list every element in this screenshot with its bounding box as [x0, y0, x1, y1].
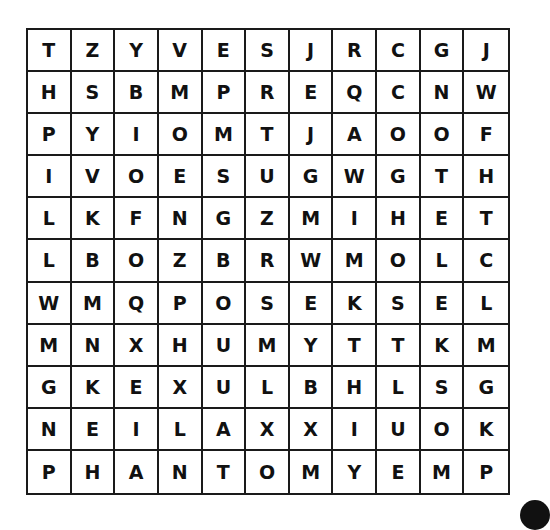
- grid-cell-r7-c4[interactable]: U: [203, 325, 247, 367]
- grid-cell-r4-c10[interactable]: T: [464, 198, 508, 240]
- grid-cell-r2-c0[interactable]: P: [28, 114, 72, 156]
- grid-cell-r10-c0[interactable]: P: [28, 451, 72, 493]
- grid-cell-r1-c3[interactable]: M: [159, 72, 203, 114]
- grid-cell-r8-c9[interactable]: S: [421, 367, 465, 409]
- grid-cell-r2-c2[interactable]: I: [115, 114, 159, 156]
- grid-cell-r6-c0[interactable]: W: [28, 283, 72, 325]
- grid-cell-r9-c2[interactable]: I: [115, 409, 159, 451]
- grid-cell-r3-c1[interactable]: V: [72, 156, 116, 198]
- grid-cell-r6-c6[interactable]: E: [290, 283, 334, 325]
- grid-cell-r4-c8[interactable]: H: [377, 198, 421, 240]
- grid-cell-r0-c8[interactable]: C: [377, 30, 421, 72]
- grid-cell-r6-c7[interactable]: K: [333, 283, 377, 325]
- grid-cell-r10-c10[interactable]: P: [464, 451, 508, 493]
- grid-cell-r6-c10[interactable]: L: [464, 283, 508, 325]
- grid-cell-r1-c0[interactable]: H: [28, 72, 72, 114]
- grid-cell-r10-c7[interactable]: Y: [333, 451, 377, 493]
- grid-cell-r3-c2[interactable]: O: [115, 156, 159, 198]
- grid-cell-r2-c5[interactable]: T: [246, 114, 290, 156]
- grid-cell-r8-c2[interactable]: E: [115, 367, 159, 409]
- grid-cell-r0-c10[interactable]: J: [464, 30, 508, 72]
- grid-cell-r4-c9[interactable]: E: [421, 198, 465, 240]
- grid-cell-r10-c1[interactable]: H: [72, 451, 116, 493]
- grid-cell-r0-c9[interactable]: G: [421, 30, 465, 72]
- grid-cell-r5-c9[interactable]: L: [421, 240, 465, 282]
- grid-cell-r5-c2[interactable]: O: [115, 240, 159, 282]
- grid-cell-r8-c10[interactable]: G: [464, 367, 508, 409]
- grid-cell-r4-c2[interactable]: F: [115, 198, 159, 240]
- grid-cell-r0-c5[interactable]: S: [246, 30, 290, 72]
- grid-cell-r7-c7[interactable]: T: [333, 325, 377, 367]
- grid-cell-r7-c5[interactable]: M: [246, 325, 290, 367]
- grid-cell-r4-c4[interactable]: G: [203, 198, 247, 240]
- grid-cell-r6-c1[interactable]: M: [72, 283, 116, 325]
- grid-cell-r8-c0[interactable]: G: [28, 367, 72, 409]
- grid-cell-r8-c4[interactable]: U: [203, 367, 247, 409]
- grid-cell-r1-c5[interactable]: R: [246, 72, 290, 114]
- grid-cell-r10-c8[interactable]: E: [377, 451, 421, 493]
- grid-cell-r9-c3[interactable]: L: [159, 409, 203, 451]
- grid-cell-r9-c4[interactable]: A: [203, 409, 247, 451]
- grid-cell-r3-c9[interactable]: T: [421, 156, 465, 198]
- grid-cell-r5-c1[interactable]: B: [72, 240, 116, 282]
- grid-cell-r9-c6[interactable]: X: [290, 409, 334, 451]
- grid-cell-r5-c6[interactable]: W: [290, 240, 334, 282]
- grid-cell-r3-c6[interactable]: G: [290, 156, 334, 198]
- grid-cell-r6-c4[interactable]: O: [203, 283, 247, 325]
- grid-cell-r10-c6[interactable]: M: [290, 451, 334, 493]
- grid-cell-r0-c0[interactable]: T: [28, 30, 72, 72]
- grid-cell-r9-c8[interactable]: U: [377, 409, 421, 451]
- grid-cell-r9-c9[interactable]: O: [421, 409, 465, 451]
- grid-cell-r1-c10[interactable]: W: [464, 72, 508, 114]
- grid-cell-r1-c2[interactable]: B: [115, 72, 159, 114]
- grid-cell-r10-c2[interactable]: A: [115, 451, 159, 493]
- grid-cell-r6-c5[interactable]: S: [246, 283, 290, 325]
- grid-cell-r1-c4[interactable]: P: [203, 72, 247, 114]
- grid-cell-r5-c10[interactable]: C: [464, 240, 508, 282]
- grid-cell-r1-c8[interactable]: C: [377, 72, 421, 114]
- grid-cell-r5-c5[interactable]: R: [246, 240, 290, 282]
- grid-cell-r8-c5[interactable]: L: [246, 367, 290, 409]
- grid-cell-r10-c5[interactable]: O: [246, 451, 290, 493]
- grid-cell-r7-c9[interactable]: K: [421, 325, 465, 367]
- grid-cell-r8-c8[interactable]: L: [377, 367, 421, 409]
- grid-cell-r5-c8[interactable]: O: [377, 240, 421, 282]
- grid-cell-r5-c4[interactable]: B: [203, 240, 247, 282]
- grid-cell-r1-c7[interactable]: Q: [333, 72, 377, 114]
- grid-cell-r4-c0[interactable]: L: [28, 198, 72, 240]
- grid-cell-r7-c10[interactable]: M: [464, 325, 508, 367]
- grid-cell-r9-c10[interactable]: K: [464, 409, 508, 451]
- grid-cell-r2-c6[interactable]: J: [290, 114, 334, 156]
- grid-cell-r9-c7[interactable]: I: [333, 409, 377, 451]
- grid-cell-r2-c9[interactable]: O: [421, 114, 465, 156]
- grid-cell-r0-c2[interactable]: Y: [115, 30, 159, 72]
- grid-cell-r0-c7[interactable]: R: [333, 30, 377, 72]
- grid-cell-r0-c3[interactable]: V: [159, 30, 203, 72]
- grid-cell-r5-c3[interactable]: Z: [159, 240, 203, 282]
- grid-cell-r3-c5[interactable]: U: [246, 156, 290, 198]
- grid-cell-r4-c5[interactable]: Z: [246, 198, 290, 240]
- grid-cell-r5-c7[interactable]: M: [333, 240, 377, 282]
- grid-cell-r10-c3[interactable]: N: [159, 451, 203, 493]
- grid-cell-r9-c1[interactable]: E: [72, 409, 116, 451]
- grid-cell-r0-c6[interactable]: J: [290, 30, 334, 72]
- grid-cell-r2-c8[interactable]: O: [377, 114, 421, 156]
- grid-cell-r8-c6[interactable]: B: [290, 367, 334, 409]
- grid-cell-r6-c9[interactable]: E: [421, 283, 465, 325]
- grid-cell-r3-c8[interactable]: G: [377, 156, 421, 198]
- grid-cell-r6-c8[interactable]: S: [377, 283, 421, 325]
- grid-cell-r3-c7[interactable]: W: [333, 156, 377, 198]
- grid-cell-r1-c6[interactable]: E: [290, 72, 334, 114]
- grid-cell-r1-c9[interactable]: N: [421, 72, 465, 114]
- grid-cell-r2-c1[interactable]: Y: [72, 114, 116, 156]
- grid-cell-r2-c7[interactable]: A: [333, 114, 377, 156]
- grid-cell-r2-c4[interactable]: M: [203, 114, 247, 156]
- grid-cell-r10-c9[interactable]: M: [421, 451, 465, 493]
- grid-cell-r5-c0[interactable]: L: [28, 240, 72, 282]
- grid-cell-r4-c1[interactable]: K: [72, 198, 116, 240]
- grid-cell-r9-c0[interactable]: N: [28, 409, 72, 451]
- grid-cell-r4-c3[interactable]: N: [159, 198, 203, 240]
- grid-cell-r6-c2[interactable]: Q: [115, 283, 159, 325]
- grid-cell-r8-c7[interactable]: H: [333, 367, 377, 409]
- grid-cell-r7-c6[interactable]: Y: [290, 325, 334, 367]
